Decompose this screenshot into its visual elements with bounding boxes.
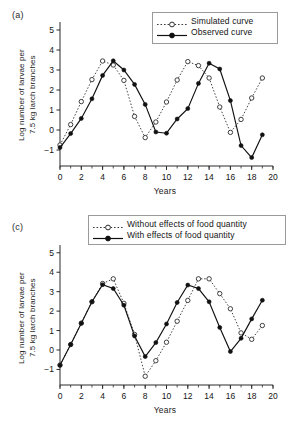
svg-text:0: 0	[58, 172, 63, 182]
svg-text:2: 2	[49, 85, 54, 95]
svg-text:16: 16	[226, 172, 236, 182]
svg-text:14: 14	[204, 391, 214, 401]
legend-label-with-food-quantity: With effects of food quantity	[127, 230, 235, 241]
svg-text:4: 4	[49, 267, 54, 277]
solid-filled-circle-key-icon	[157, 27, 187, 38]
svg-text:12: 12	[183, 391, 193, 401]
dotted-open-circle-key-icon	[157, 16, 187, 27]
dotted-open-circle-key-icon	[93, 219, 123, 230]
svg-text:6: 6	[122, 172, 127, 182]
legend-label-observed-curve: Observed curve	[191, 27, 252, 38]
svg-text:6: 6	[122, 391, 127, 401]
svg-text:4: 4	[100, 172, 105, 182]
svg-text:2: 2	[49, 306, 54, 316]
legend-item-with-food-quantity: With effects of food quantity	[93, 230, 280, 241]
legend-item-simulated-curve: Simulated curve	[157, 16, 272, 27]
svg-text:5: 5	[49, 248, 54, 258]
panel-c: (c) Log number of larvae per 7.5 kg larc…	[0, 215, 290, 430]
svg-text:2: 2	[79, 391, 84, 401]
svg-text:1: 1	[49, 105, 54, 115]
svg-text:0: 0	[58, 391, 63, 401]
svg-text:20: 20	[268, 172, 278, 182]
svg-text:1: 1	[49, 326, 54, 336]
svg-text:3: 3	[49, 65, 54, 75]
svg-text:20: 20	[268, 391, 278, 401]
panel-c-plot-area: −101234502468101214161820	[0, 215, 290, 430]
svg-text:16: 16	[226, 391, 236, 401]
svg-text:10: 10	[162, 172, 172, 182]
svg-text:−1: −1	[44, 145, 54, 155]
panel-c-legend: Without effects of food quantity With ef…	[88, 215, 286, 245]
svg-text:14: 14	[204, 172, 214, 182]
svg-text:18: 18	[247, 172, 257, 182]
legend-item-observed-curve: Observed curve	[157, 27, 272, 38]
svg-text:18: 18	[247, 391, 257, 401]
svg-text:3: 3	[49, 287, 54, 297]
svg-text:8: 8	[143, 391, 148, 401]
svg-text:2: 2	[79, 172, 84, 182]
legend-label-simulated-curve: Simulated curve	[191, 16, 253, 27]
panel-a-x-axis-label: Years	[55, 186, 275, 196]
panel-a: (a) Log number of larvae per 7.5 kg larc…	[0, 0, 290, 215]
svg-text:4: 4	[100, 391, 105, 401]
svg-text:0: 0	[49, 125, 54, 135]
figure-two-panel-larvae-chart: (a) Log number of larvae per 7.5 kg larc…	[0, 0, 290, 430]
svg-text:12: 12	[183, 172, 193, 182]
svg-text:10: 10	[162, 391, 172, 401]
svg-text:8: 8	[143, 172, 148, 182]
panel-c-x-axis-label: Years	[55, 405, 275, 415]
svg-text:4: 4	[49, 45, 54, 55]
solid-filled-circle-key-icon	[93, 230, 123, 241]
legend-item-without-food-quantity: Without effects of food quantity	[93, 219, 280, 230]
panel-a-legend: Simulated curve Observed curve	[152, 12, 278, 44]
svg-text:−1: −1	[44, 364, 54, 374]
svg-text:0: 0	[49, 345, 54, 355]
legend-label-without-food-quantity: Without effects of food quantity	[127, 219, 247, 230]
svg-text:5: 5	[49, 25, 54, 35]
